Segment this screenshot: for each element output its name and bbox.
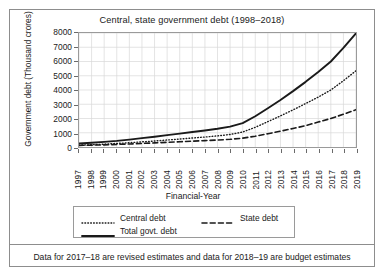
x-tick-label: 1997 [74, 170, 83, 189]
y-tick-mark [74, 32, 78, 33]
y-tick-mark [74, 61, 78, 62]
legend-swatch-dashed [201, 213, 235, 222]
x-tick-mark [344, 149, 345, 153]
footnote-separator [10, 244, 374, 245]
gridlines [79, 33, 356, 147]
y-tick-label: 6000 [53, 57, 72, 65]
legend-swatch-solid [81, 226, 115, 235]
x-tick-label: 2008 [214, 170, 223, 189]
x-tick-label: 2001 [125, 170, 134, 189]
y-tick-mark [74, 76, 78, 77]
legend-item-central-debt[interactable]: Central debt [81, 211, 166, 224]
x-tick-label: 2000 [112, 170, 121, 189]
x-axis-ticks: 1997199819992000200120022003200420052006… [78, 155, 357, 189]
x-tick-label: 2017 [328, 170, 337, 189]
x-tick-label: 2007 [201, 170, 210, 189]
x-tick-mark [357, 149, 358, 153]
x-tick-label: 2015 [302, 170, 311, 189]
chart-svg [79, 33, 356, 147]
y-tick-label: 7000 [53, 43, 72, 51]
x-tick-label: 2010 [239, 170, 248, 189]
x-tick-label: 1999 [99, 170, 108, 189]
x-tick-label: 2005 [175, 170, 184, 189]
y-tick-label: 8000 [53, 28, 72, 36]
x-tick-mark [192, 149, 193, 153]
x-tick-label: 2009 [226, 170, 235, 189]
y-tick-label: 2000 [53, 115, 72, 123]
legend-label-central-debt: Central debt [120, 213, 166, 223]
x-tick-label: 2018 [340, 170, 349, 189]
y-tick-label: 1000 [53, 130, 72, 138]
plot-area-wrapper: Government debt (Thousand crores) 010002… [10, 10, 376, 200]
y-tick-mark [74, 134, 78, 135]
x-tick-mark [230, 149, 231, 153]
y-tick-mark [74, 119, 78, 120]
x-tick-mark [179, 149, 180, 153]
legend-item-total-govt-debt[interactable]: Total govt. debt [81, 224, 177, 237]
x-tick-mark [154, 149, 155, 153]
y-tick-label: 5000 [53, 72, 72, 80]
y-axis-ticks: 010002000300040005000600070008000 [32, 32, 72, 148]
y-tick-mark [74, 105, 78, 106]
x-tick-mark [243, 149, 244, 153]
y-tick-label: 3000 [53, 101, 72, 109]
x-tick-mark [205, 149, 206, 153]
x-tick-mark [332, 149, 333, 153]
x-tick-label: 2016 [315, 170, 324, 189]
chart-legend: Central debt State debt Total govt. debt [73, 206, 295, 238]
x-tick-label: 2014 [290, 170, 299, 189]
x-axis-label: Financial-Year [10, 191, 376, 201]
x-tick-mark [167, 149, 168, 153]
x-tick-mark [268, 149, 269, 153]
x-tick-mark [116, 149, 117, 153]
x-tick-mark [256, 149, 257, 153]
y-tick-label: 4000 [53, 86, 72, 94]
x-tick-mark [141, 149, 142, 153]
x-tick-mark [306, 149, 307, 153]
x-tick-label: 2004 [163, 170, 172, 189]
x-tick-label: 2019 [353, 170, 362, 189]
y-tick-mark [74, 47, 78, 48]
plot-area [78, 32, 357, 148]
x-tick-mark [129, 149, 130, 153]
chart-footnote: Data for 2017–18 are revised estimates a… [10, 248, 374, 266]
legend-item-state-debt[interactable]: State debt [201, 211, 278, 224]
x-tick-mark [91, 149, 92, 153]
legend-swatch-dotted [81, 213, 115, 222]
x-tick-label: 2006 [188, 170, 197, 189]
x-tick-label: 2012 [264, 170, 273, 189]
chart-figure: Central, state government debt (1998–201… [9, 9, 375, 267]
x-tick-label: 1998 [87, 170, 96, 189]
legend-label-state-debt: State debt [240, 213, 278, 223]
x-tick-label: 2011 [252, 171, 261, 189]
legend-label-total-govt-debt: Total govt. debt [120, 226, 177, 236]
y-tick-mark [74, 90, 78, 91]
x-tick-label: 2002 [137, 170, 146, 189]
x-tick-mark [319, 149, 320, 153]
x-tick-mark [78, 149, 79, 153]
x-tick-mark [218, 149, 219, 153]
y-tick-label: 0 [67, 144, 72, 152]
x-tick-label: 2003 [150, 170, 159, 189]
x-tick-mark [103, 149, 104, 153]
x-tick-label: 2013 [277, 170, 286, 189]
x-tick-mark [294, 149, 295, 153]
x-tick-mark [281, 149, 282, 153]
